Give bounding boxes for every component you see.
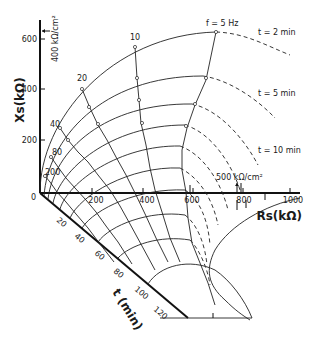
svg-text:t = 2 min: t = 2 min [258, 28, 296, 37]
svg-text:400 kΩ/cm²: 400 kΩ/cm² [51, 15, 60, 62]
x-axis-markers [190, 185, 265, 210]
frequency-labels: f = 5 Hz 10 20 40 80 200 [45, 19, 238, 177]
svg-text:200: 200 [88, 196, 103, 205]
x-axis-label: Rs(kΩ) [256, 209, 302, 223]
svg-text:80: 80 [52, 148, 62, 157]
svg-text:80: 80 [112, 267, 126, 280]
svg-text:400: 400 [139, 196, 154, 205]
svg-text:600: 600 [22, 35, 37, 44]
svg-text:500 kΩ/cm²: 500 kΩ/cm² [216, 173, 263, 182]
svg-text:40: 40 [50, 120, 60, 129]
svg-text:t = 10 min: t = 10 min [258, 146, 301, 155]
time-labels: t = 2 min t = 5 min t = 10 min [258, 28, 301, 155]
svg-text:t = 5 min: t = 5 min [258, 89, 296, 98]
svg-text:10: 10 [130, 33, 140, 42]
svg-text:20: 20 [77, 74, 87, 83]
impedance-3d-plot: 200 400 600 Xs(kΩ) 0 200 400 600 800 100… [0, 0, 322, 340]
svg-text:200: 200 [45, 168, 60, 177]
t-ticks: 20 40 60 80 100 120 [55, 216, 169, 322]
svg-text:800: 800 [236, 196, 251, 205]
svg-text:100: 100 [133, 285, 150, 302]
svg-text:1000: 1000 [283, 196, 303, 205]
y-axis-label: Xs(kΩ) [13, 77, 27, 123]
svg-text:200: 200 [22, 136, 37, 145]
axes [40, 20, 300, 318]
svg-text:0: 0 [31, 193, 36, 202]
svg-text:20: 20 [55, 216, 69, 229]
svg-text:60: 60 [93, 249, 107, 262]
svg-text:120: 120 [152, 305, 169, 322]
svg-text:f = 5 Hz: f = 5 Hz [206, 19, 238, 28]
svg-text:40: 40 [73, 232, 87, 245]
